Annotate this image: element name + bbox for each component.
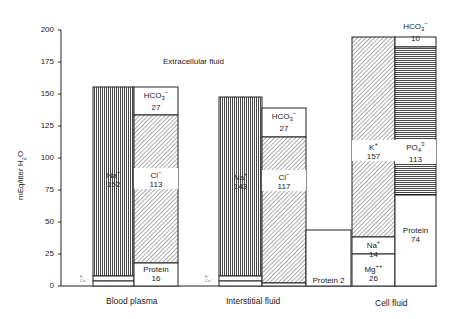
cf-po4-label: PO4≡113 bbox=[395, 140, 436, 164]
cf-k-label: K+157 bbox=[352, 140, 395, 161]
category-cell-fluid: Cell fluid bbox=[375, 298, 408, 308]
bp-cl-label: Cl−113 bbox=[134, 168, 178, 189]
y-tick: 75 bbox=[32, 185, 54, 194]
bp-hco3-label: HCO3−27 bbox=[134, 88, 178, 112]
y-tick: 100 bbox=[32, 153, 54, 162]
y-tick: 175 bbox=[32, 57, 54, 66]
category-interstitial-fluid: Interstitial fluid bbox=[226, 296, 280, 306]
if-protein-label: Protein 2 bbox=[306, 276, 351, 285]
cf-protein-label: Protein74 bbox=[395, 226, 436, 244]
bp-protein-label: Protein16 bbox=[134, 265, 178, 283]
if-k-ca-label: K⁺Ca⁺⁺ bbox=[205, 275, 214, 283]
y-tick: 0 bbox=[32, 281, 54, 290]
if-cl-label: Cl−117 bbox=[262, 170, 306, 191]
bp-na-label: Na+152 bbox=[93, 168, 134, 189]
extracellular-annotation: Extracellular fluid bbox=[163, 57, 224, 66]
category-blood-plasma: Blood plasma bbox=[106, 296, 158, 306]
cf-mg-label: Mg++26 bbox=[352, 262, 395, 283]
y-tick: 150 bbox=[32, 89, 54, 98]
y-axis-title: mEq/liter H2O bbox=[16, 151, 27, 200]
cf-hco3-label: HCO3−10 bbox=[395, 19, 436, 43]
y-tick: 50 bbox=[32, 217, 54, 226]
if-na-label: Na+143 bbox=[219, 170, 262, 191]
y-tick: 125 bbox=[32, 121, 54, 130]
y-tick: 25 bbox=[32, 249, 54, 258]
bp-k-ca-label: K⁺Ca⁺⁺ bbox=[80, 275, 89, 283]
cf-na-label: Na+14 bbox=[352, 238, 395, 259]
if-hco3-label: HCO3−27 bbox=[262, 109, 306, 133]
y-tick: 200 bbox=[32, 25, 54, 34]
y-axis bbox=[58, 30, 61, 286]
